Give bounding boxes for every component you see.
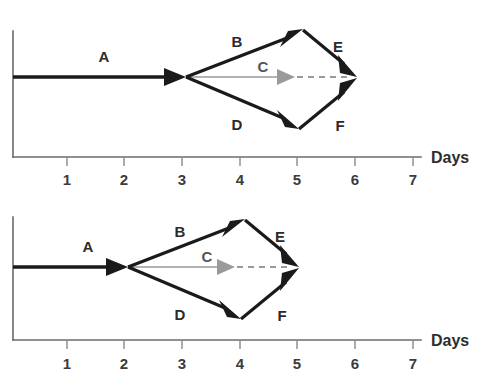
activity-label-d-top: D — [232, 116, 243, 133]
x-tick-label-3-bottom: 3 — [178, 355, 186, 372]
activity-label-a-bottom: A — [83, 238, 94, 255]
activity-f-arrowhead-bottom — [280, 268, 299, 291]
activity-label-b-bottom: B — [175, 223, 186, 240]
x-tick-label-7-bottom: 7 — [409, 355, 417, 372]
activity-a-bottom — [13, 258, 128, 276]
activity-e-bottom — [245, 220, 299, 267]
x-tick-label-1-top: 1 — [63, 171, 71, 188]
activity-label-e-bottom: E — [275, 228, 285, 245]
activity-d-line-top — [186, 77, 283, 118]
x-tick-label-2-bottom: 2 — [120, 355, 128, 372]
x-axis-title-top: Days — [431, 149, 469, 166]
x-tick-label-6-top: 6 — [351, 171, 359, 188]
activity-label-c-bottom: C — [202, 248, 213, 265]
activity-d-arrowhead-bottom — [219, 300, 241, 319]
activity-label-c-top: C — [258, 58, 269, 75]
activity-label-f-top: F — [335, 117, 344, 134]
x-tick-label-4-top: 4 — [236, 171, 245, 188]
x-axis-title-bottom: Days — [431, 332, 469, 349]
x-tick-label-3-top: 3 — [178, 171, 186, 188]
activity-f-bottom — [241, 268, 299, 319]
activity-c-arrowhead-top — [277, 69, 295, 85]
activity-label-a-top: A — [99, 48, 110, 65]
activity-c-top — [187, 69, 350, 85]
activity-b-top — [186, 29, 303, 77]
x-tick-label-2-top: 2 — [120, 171, 128, 188]
activity-e-arrowhead-bottom — [280, 245, 299, 267]
activity-b-bottom — [128, 219, 245, 267]
activity-d-top — [186, 77, 299, 129]
activity-f-arrowhead-top — [338, 78, 357, 101]
activity-d-line-bottom — [128, 267, 225, 308]
x-tick-label-4-bottom: 4 — [236, 355, 245, 372]
x-tick-label-6-bottom: 6 — [351, 355, 359, 372]
x-tick-label-5-top: 5 — [293, 171, 301, 188]
activity-a-arrowhead-top — [164, 68, 186, 86]
activity-network-top: 1 2 3 4 5 6 7 Days — [0, 0, 483, 190]
activity-f-top — [299, 78, 357, 129]
x-tick-label-1-bottom: 1 — [63, 355, 71, 372]
activity-label-d-bottom: D — [175, 306, 186, 323]
x-tick-label-5-bottom: 5 — [293, 355, 301, 372]
activity-label-b-top: B — [232, 33, 243, 50]
activity-label-f-bottom: F — [277, 307, 286, 324]
activity-a-top — [13, 68, 186, 86]
activity-network-bottom: 1 2 3 4 5 6 7 Days — [0, 190, 483, 376]
activity-e-arrowhead-top — [338, 55, 357, 77]
activity-d-arrowhead-top — [277, 110, 299, 129]
activity-c-arrowhead-bottom — [217, 259, 235, 275]
diagram-stage: 1 2 3 4 5 6 7 Days — [0, 0, 483, 376]
activity-e-top — [303, 30, 357, 77]
x-tick-label-7-top: 7 — [409, 171, 417, 188]
axis-group-bottom: 1 2 3 4 5 6 7 Days — [13, 217, 469, 372]
activity-a-arrowhead-bottom — [106, 258, 128, 276]
activity-label-e-top: E — [333, 38, 343, 55]
